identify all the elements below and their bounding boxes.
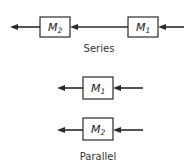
parallel-group: M1 M2 Parallel <box>57 77 143 162</box>
series-block-m1-sub: 1 <box>146 26 151 35</box>
parallel-m2-input-arrowhead-icon <box>113 127 121 133</box>
series-output-arrowhead-icon <box>10 24 18 30</box>
series-block-m1-label: M <box>136 21 146 34</box>
series-block-m2: M2 <box>40 17 70 37</box>
series-group: M1 M2 Series <box>10 17 184 54</box>
diagram-canvas: M1 M2 Series M1 M2 Pa <box>0 0 191 168</box>
series-connector-arrowhead-icon <box>70 24 78 30</box>
series-block-m2-label: M <box>48 21 58 34</box>
parallel-m1-output-arrowhead-icon <box>57 85 65 91</box>
series-input-arrowhead-icon <box>158 24 166 30</box>
parallel-block-m2-sub: 2 <box>101 128 106 137</box>
parallel-m1-input-arrowhead-icon <box>113 85 121 91</box>
parallel-m2-output-arrowhead-icon <box>57 127 65 133</box>
parallel-block-m1-sub: 1 <box>101 87 106 96</box>
series-block-m2-sub: 2 <box>58 26 63 35</box>
parallel-block-m1: M1 <box>83 77 113 99</box>
parallel-caption: Parallel <box>80 151 116 162</box>
parallel-block-m2-label: M <box>91 123 101 136</box>
series-block-m1: M1 <box>128 17 158 37</box>
parallel-block-m2: M2 <box>83 118 113 140</box>
series-caption: Series <box>84 43 115 54</box>
parallel-block-m1-label: M <box>91 82 101 95</box>
